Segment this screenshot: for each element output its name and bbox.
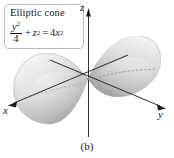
cone-nappe-positive bbox=[88, 36, 161, 97]
equation: y2 4 + z2 = 4x2 bbox=[10, 22, 79, 45]
x-axis-label: x bbox=[3, 104, 8, 116]
equation-label-box: Elliptic cone y2 4 + z2 = 4x2 bbox=[4, 4, 84, 49]
cone-nappe-negative bbox=[14, 53, 88, 124]
z-axis-label: z bbox=[80, 1, 84, 13]
y-axis-label: y bbox=[158, 108, 163, 120]
numerator-exponent: 2 bbox=[17, 19, 20, 26]
fraction-numerator: y2 bbox=[10, 22, 22, 33]
surface-name-label: Elliptic cone bbox=[10, 8, 79, 19]
figure-caption: (b) bbox=[0, 140, 174, 152]
elliptic-cone-figure: Elliptic cone y2 4 + z2 = 4x2 z x y (b) bbox=[0, 0, 174, 158]
fraction-denominator: 4 bbox=[13, 33, 18, 44]
fraction-y-squared-over-4: y2 4 bbox=[10, 22, 22, 45]
origin-point bbox=[87, 78, 89, 80]
equals-operator: = bbox=[40, 28, 50, 39]
plus-operator: + bbox=[23, 28, 33, 39]
